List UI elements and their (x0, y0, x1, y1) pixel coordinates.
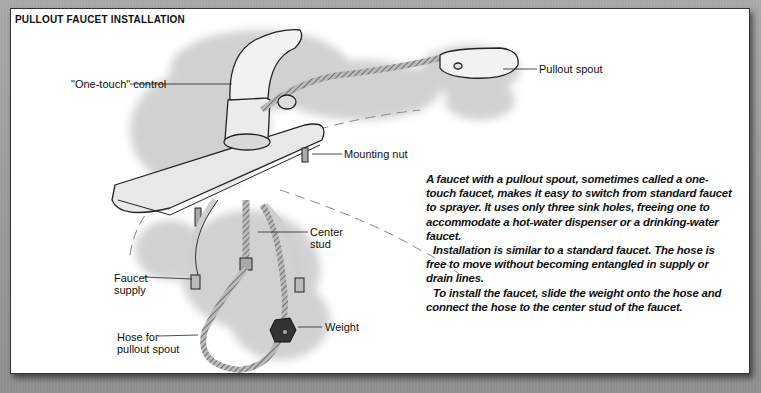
label-pullout-spout: Pullout spout (539, 63, 603, 75)
label-center-stud: Center stud (310, 226, 343, 250)
label-mounting-nut: Mounting nut (344, 148, 408, 160)
label-center-stud-line1: Center (310, 226, 343, 238)
label-faucet-supply: Faucet supply (114, 272, 148, 296)
label-one-touch-control: "One-touch" control (71, 78, 166, 90)
caption-paragraph-2: Installation is similar to a standard fa… (426, 243, 736, 286)
supply-fitting-right (295, 278, 304, 292)
caption-paragraph-3: To install the faucet, slide the weight … (426, 286, 736, 314)
caption-paragraph-1: A faucet with a pullout spout, sometimes… (426, 172, 736, 243)
label-faucet-supply-line2: supply (114, 284, 148, 296)
label-hose-line1: Hose for (117, 331, 179, 343)
label-hose-line2: pullout spout (117, 343, 179, 355)
supply-fitting-left (191, 275, 200, 289)
caption-text: A faucet with a pullout spout, sometimes… (426, 172, 736, 314)
label-weight: Weight (325, 321, 359, 333)
pullout-spout (440, 48, 518, 78)
hose-weight (270, 318, 296, 342)
figure-title: Pullout Faucet Installation (15, 14, 185, 25)
label-center-stud-line2: stud (310, 238, 343, 250)
label-hose: Hose for pullout spout (117, 331, 179, 355)
label-faucet-supply-line1: Faucet (114, 272, 148, 284)
